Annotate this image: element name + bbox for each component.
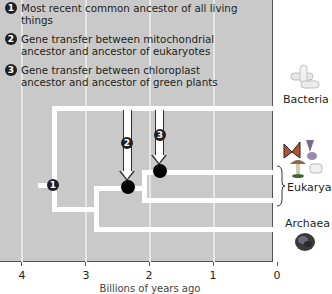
legend-text-3: Gene transfer between chloroplast ancest… (21, 64, 218, 88)
archaea-icon (294, 232, 316, 252)
marker-1-common-ancestor: 1 (47, 179, 59, 191)
branch-archaea-eukarya (52, 207, 98, 212)
tick-0 (277, 262, 278, 266)
bacteria-icon (287, 63, 321, 91)
node-chloroplast-transfer (153, 164, 167, 178)
tick-label-1: 1 (203, 269, 223, 282)
trunk-archaea-eukarya (94, 186, 99, 232)
tick-2 (149, 262, 150, 266)
tick-1 (213, 262, 214, 266)
number-badge-2: 2 (5, 33, 17, 45)
tick-3 (85, 262, 86, 266)
tick-label-4: 4 (12, 269, 32, 282)
tick-label-3: 3 (76, 269, 96, 282)
label-bacteria: Bacteria (283, 93, 329, 106)
branch-eukarya (94, 186, 146, 191)
label-eukarya: Eukarya (287, 181, 332, 194)
marker-3-chloroplast: 3 (154, 129, 166, 141)
eukarya-icons (282, 138, 326, 180)
legend: 1 Most recent common ancestor of all liv… (5, 2, 270, 95)
legend-item-3: 3 Gene transfer between chloroplast ance… (5, 64, 226, 88)
label-archaea: Archaea (285, 217, 330, 230)
tick-4 (21, 262, 22, 266)
legend-item-2: 2 Gene transfer between mitochondrial an… (5, 33, 236, 57)
diagram-panel: 1 Most recent common ancestor of all liv… (0, 0, 273, 262)
number-badge-1: 1 (5, 2, 17, 14)
branch-other-eukaryotes (142, 198, 273, 203)
legend-text-1: Most recent common ancestor of all livin… (21, 2, 237, 26)
node-mitochondrial-transfer (121, 180, 135, 194)
marker-2-mitochondrial: 2 (121, 137, 133, 149)
legend-text-2: Gene transfer between mitochondrial ance… (21, 33, 214, 57)
number-badge-3: 3 (5, 64, 17, 76)
legend-item-1: 1 Most recent common ancestor of all liv… (5, 2, 270, 26)
root-trunk (52, 106, 57, 212)
tick-label-0: 0 (267, 269, 287, 282)
eukarya-brace (276, 165, 286, 207)
branch-archaea (94, 227, 273, 232)
x-axis-label: Billions of years ago (80, 283, 220, 294)
tick-label-2: 2 (139, 269, 159, 282)
